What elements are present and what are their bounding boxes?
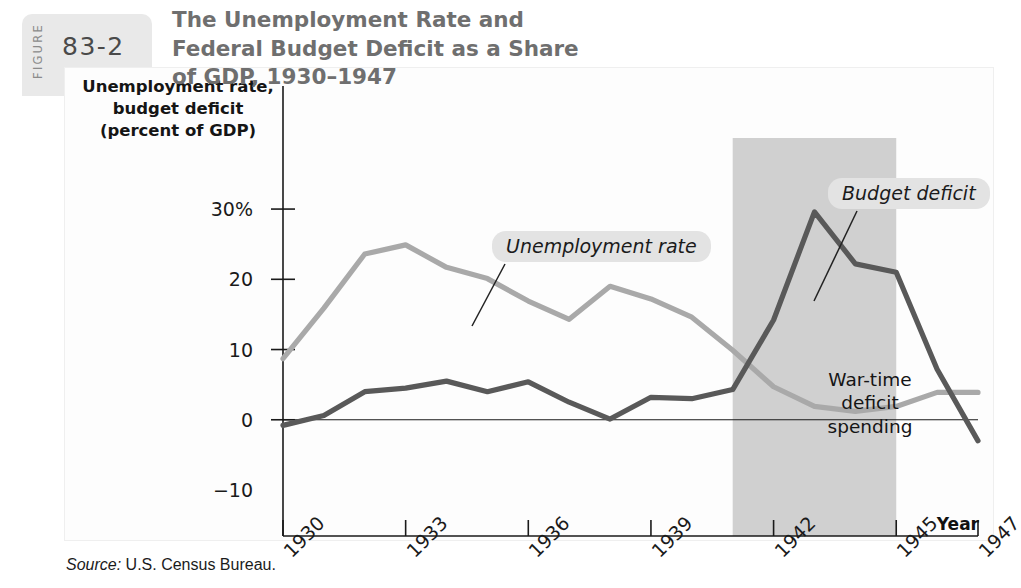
y-tick-label: 0 [193,409,253,431]
chart-plot [65,68,993,540]
wartime-band-label-line1: War-time [811,368,929,391]
figure-word-label: FIGURE [31,13,45,89]
figure-title: The Unemployment Rate and Federal Budget… [172,6,602,92]
wartime-band-label: War-time deficit spending [811,368,929,438]
source-label: Source: [66,556,121,573]
y-tick-label: 20 [193,268,253,290]
callout-budget-deficit: Budget deficit [828,178,990,209]
y-tick-label: 10 [193,339,253,361]
figure-number-label: 83-2 [62,32,125,61]
chart-panel: Unemployment rate, budget deficit (perce… [65,68,993,540]
callout-unemployment-rate: Unemployment rate [492,231,711,262]
y-tick-label: 30% [193,198,253,220]
wartime-band-label-line2: deficit [811,391,929,414]
x-axis-title: Year [937,514,979,534]
wartime-band-label-line3: spending [811,415,929,438]
source-value: U.S. Census Bureau. [126,556,276,573]
y-tick-label: −10 [193,479,253,501]
source-note: Source: U.S. Census Bureau. [66,556,276,574]
